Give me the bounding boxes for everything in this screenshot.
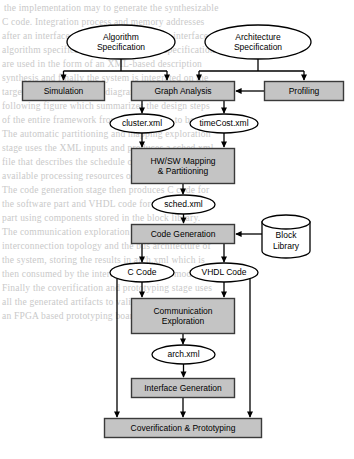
node-code_generation — [132, 225, 235, 244]
node-arch_xml — [152, 345, 215, 364]
node-interface_generation — [132, 379, 235, 398]
diagram-vector-layer — [0, 0, 354, 459]
node-block_library — [262, 215, 310, 258]
node-vhdl_code — [190, 263, 258, 282]
node-communication_expl — [132, 299, 235, 334]
node-c_code — [110, 263, 174, 282]
node-graph_analysis — [132, 82, 235, 101]
node-timecost_xml — [190, 114, 258, 133]
diagram-canvas: the implementation may to generate the s… — [0, 0, 354, 459]
edge-c-code-bypass-to-coverification — [110, 273, 117, 418]
edge-vhdl-code-bypass-to-coverification — [250, 273, 258, 418]
node-hwsw_mapping — [132, 149, 235, 184]
node-coverification — [105, 419, 262, 438]
node-sched_xml — [152, 195, 215, 214]
node-algorithm_spec — [67, 25, 175, 59]
node-simulation — [23, 82, 105, 101]
node-cluster_xml — [110, 114, 174, 133]
node-profiling — [265, 82, 344, 101]
node-architecture_spec — [205, 25, 311, 59]
